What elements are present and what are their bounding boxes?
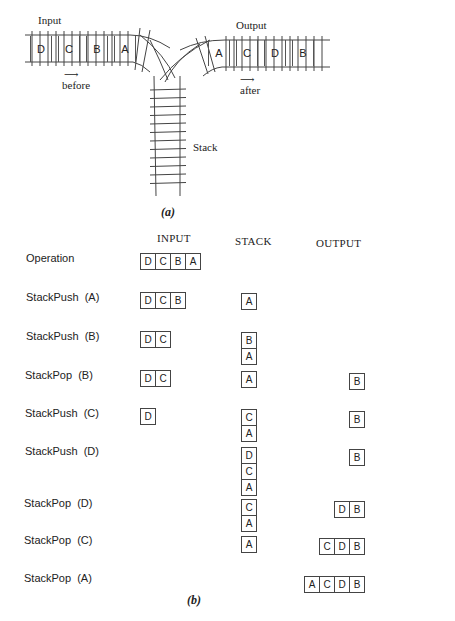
output-car: C	[236, 40, 258, 66]
output-car: A	[208, 40, 230, 66]
letter-box: B	[349, 411, 365, 428]
operation-label: StackPop (A)	[24, 572, 92, 584]
stack-box: A	[241, 293, 257, 310]
stack-column: A	[241, 371, 257, 388]
output-car: B	[292, 40, 314, 66]
stack-box: D	[241, 447, 257, 464]
output-label: Output	[236, 19, 267, 31]
operation-label: StackPush (D)	[25, 445, 99, 457]
stack-box: A	[241, 536, 257, 553]
operation-label: StackPop (D)	[24, 497, 92, 509]
header-input: INPUT	[157, 232, 191, 244]
stack-box: C	[241, 463, 257, 480]
before-label-group: ⟶ before	[62, 70, 90, 91]
letter-box: B	[349, 501, 365, 518]
letter-box: D	[140, 253, 156, 270]
header-stack: STACK	[235, 235, 272, 247]
stack-column: CA	[241, 409, 257, 442]
stack-column: BA	[241, 332, 257, 365]
operation-label: StackPush (B)	[26, 330, 99, 342]
input-car: A	[114, 36, 136, 62]
output-boxes: ACDB	[304, 576, 365, 593]
input-boxes: D	[140, 408, 156, 425]
letter-box: C	[155, 292, 171, 309]
output-boxes: B	[349, 449, 365, 466]
output-boxes: B	[349, 373, 365, 390]
letter-box: C	[319, 576, 335, 593]
output-car: D	[264, 40, 286, 66]
stack-box: A	[241, 371, 257, 388]
output-boxes: DB	[334, 501, 365, 518]
caption-a: (a)	[161, 205, 175, 220]
letter-box: C	[319, 538, 335, 555]
stack-label: Stack	[193, 141, 217, 153]
operation-label: Operation	[26, 252, 74, 264]
caption-b: (b)	[187, 593, 201, 608]
stack-column: DCA	[241, 447, 257, 496]
input-car: C	[58, 36, 80, 62]
rail-tie	[150, 98, 186, 99]
railway-diagram	[0, 0, 455, 230]
before-label: before	[62, 80, 90, 91]
header-output: OUTPUT	[316, 237, 361, 249]
output-boxes: B	[349, 411, 365, 428]
input-label: Input	[38, 14, 61, 26]
letter-box: D	[334, 576, 350, 593]
stack-box: A	[241, 479, 257, 496]
letter-box: A	[304, 576, 320, 593]
letter-box: A	[185, 253, 201, 270]
stack-box: C	[241, 409, 257, 426]
rail-tie	[196, 38, 208, 74]
input-boxes: DCBA	[140, 253, 201, 270]
letter-box: D	[140, 370, 156, 387]
input-boxes: DCB	[140, 292, 186, 309]
stack-box: C	[241, 499, 257, 516]
letter-box: D	[334, 538, 350, 555]
letter-box: B	[170, 292, 186, 309]
operation-label: StackPop (B)	[25, 369, 93, 381]
input-car: B	[86, 36, 108, 62]
letter-box: D	[334, 501, 350, 518]
letter-box: C	[155, 370, 171, 387]
letter-box: B	[349, 449, 365, 466]
input-boxes: DC	[140, 370, 171, 387]
rail-tie	[150, 115, 186, 116]
rail-tie	[150, 123, 186, 124]
stack-track-rail-left	[154, 76, 156, 196]
output-boxes: CDB	[319, 538, 365, 555]
operation-label: StackPush (C)	[25, 407, 99, 419]
letter-box: C	[155, 331, 171, 348]
letter-box: B	[349, 373, 365, 390]
letter-box: B	[170, 253, 186, 270]
letter-box: D	[140, 331, 156, 348]
rail-tie	[150, 106, 186, 107]
input-boxes: DC	[140, 331, 171, 348]
stack-column: A	[241, 293, 257, 310]
stack-box: A	[241, 515, 257, 532]
stack-box: A	[241, 348, 257, 365]
letter-box: B	[349, 538, 365, 555]
operation-label: StackPush (A)	[26, 291, 99, 303]
input-car: D	[30, 36, 52, 62]
stack-box: A	[241, 425, 257, 442]
letter-box: C	[155, 253, 171, 270]
stack-column: CA	[241, 499, 257, 532]
stack-column: A	[241, 536, 257, 553]
letter-box: D	[140, 408, 156, 425]
letter-box: B	[349, 576, 365, 593]
rail-tie	[150, 89, 186, 90]
operation-label: StackPop (C)	[24, 534, 92, 546]
after-label: after	[240, 85, 260, 96]
stack-box: B	[241, 332, 257, 349]
after-label-group: ⟶ after	[240, 75, 260, 96]
letter-box: D	[140, 292, 156, 309]
